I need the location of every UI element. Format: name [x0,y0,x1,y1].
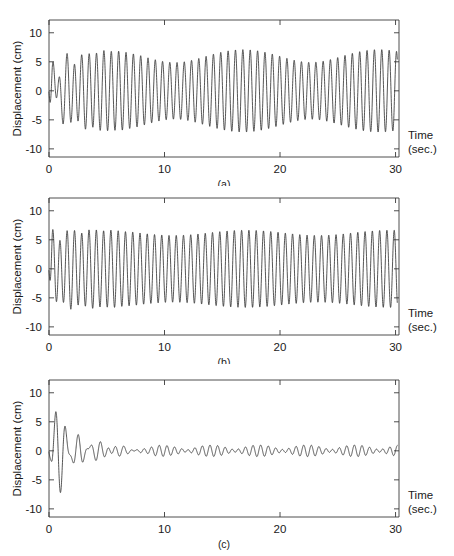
x-tick-label: 20 [274,341,287,353]
x-tick-label: 30 [389,523,402,535]
y-tick-label: -10 [25,143,42,155]
y-tick-label: 10 [29,387,42,399]
x-tick-label: 0 [46,163,52,175]
x-tick-label: 20 [274,163,287,175]
x-axis-label-time: Time [408,489,433,501]
x-axis-label-time: Time [408,307,433,319]
y-tick-label: 0 [36,85,42,97]
x-tick-label: 10 [158,523,171,535]
x-axis-label-units: (sec.) [408,143,437,155]
y-tick-label: 5 [36,56,42,68]
x-tick-label: 0 [46,341,52,353]
plot-panel-c: 1050-5-100102030Displacement (cm)Time(se… [0,360,454,556]
plot-panel-a: 1050-5-100102030Displacement (cm)Time(se… [0,0,454,186]
x-tick-label: 30 [389,163,402,175]
x-axis-label-time: Time [408,129,433,141]
x-tick-label: 10 [158,163,171,175]
y-tick-label: -5 [32,292,42,304]
y-axis-label: Displacement (cm) [11,218,23,314]
waveform-trace-c [49,412,397,493]
waveform-trace-b [49,230,397,310]
chart-svg-c: 1050-5-100102030Displacement (cm)Time(se… [0,360,454,556]
y-tick-label: -5 [32,114,42,126]
y-tick-label: 5 [36,234,42,246]
figure-three-displacement-time-histories: 1050-5-100102030Displacement (cm)Time(se… [0,0,454,556]
y-tick-label: 0 [36,445,42,457]
x-axis-label-units: (sec.) [408,503,437,515]
y-axis-label: Displacement (cm) [11,40,23,136]
x-tick-label: 20 [274,523,287,535]
x-tick-label: 10 [158,341,171,353]
x-tick-label: 0 [46,523,52,535]
chart-svg-a: 1050-5-100102030Displacement (cm)Time(se… [0,0,454,186]
y-tick-label: 10 [29,205,42,217]
x-axis-label-units: (sec.) [408,321,437,333]
plot-panel-b: 1050-5-100102030Displacement (cm)Time(se… [0,178,454,364]
y-tick-label: 5 [36,416,42,428]
y-axis-label: Displacement (cm) [11,400,23,496]
waveform-trace-a [49,50,397,132]
y-tick-label: -10 [25,321,42,333]
x-tick-label: 30 [389,341,402,353]
y-tick-label: -5 [32,474,42,486]
panel-caption-c: (c) [218,538,230,550]
y-tick-label: 0 [36,263,42,275]
y-tick-label: -10 [25,503,42,515]
chart-svg-b: 1050-5-100102030Displacement (cm)Time(se… [0,178,454,364]
y-tick-label: 10 [29,27,42,39]
